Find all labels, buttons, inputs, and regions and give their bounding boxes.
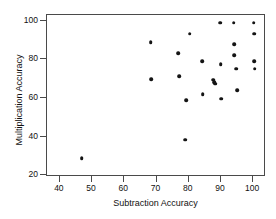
data-point bbox=[200, 60, 204, 64]
plot-area bbox=[47, 15, 264, 175]
y-tick-mark bbox=[40, 174, 46, 175]
x-tick-label: 90 bbox=[207, 184, 233, 193]
data-point bbox=[219, 63, 223, 67]
data-point bbox=[232, 43, 236, 47]
plot-frame bbox=[46, 14, 265, 176]
x-tick-label: 70 bbox=[143, 184, 169, 193]
data-point bbox=[177, 51, 181, 55]
data-point bbox=[253, 67, 257, 71]
data-point bbox=[232, 21, 236, 25]
data-point bbox=[219, 97, 223, 101]
y-tick-mark bbox=[40, 136, 46, 137]
data-point bbox=[80, 157, 84, 161]
data-point bbox=[149, 78, 153, 82]
data-point bbox=[235, 67, 239, 71]
x-tick-mark bbox=[156, 176, 157, 182]
x-tick-label: 60 bbox=[110, 184, 136, 193]
x-tick-mark bbox=[220, 176, 221, 182]
scatter-plot-figure: 20406080100 405060708090100 Subtraction … bbox=[0, 0, 276, 219]
x-tick-mark bbox=[123, 176, 124, 182]
y-axis-title: Multiplication Accuracy bbox=[14, 19, 24, 181]
y-tick-mark bbox=[40, 20, 46, 21]
x-tick-label: 50 bbox=[78, 184, 104, 193]
data-point bbox=[178, 74, 182, 78]
data-point bbox=[252, 21, 256, 25]
x-tick-label: 100 bbox=[239, 184, 265, 193]
data-point bbox=[252, 32, 256, 36]
x-tick-mark bbox=[252, 176, 253, 182]
data-point bbox=[213, 82, 217, 86]
x-tick-mark bbox=[59, 176, 60, 182]
y-tick-mark bbox=[40, 58, 46, 59]
y-tick-mark bbox=[40, 97, 46, 98]
x-tick-label: 40 bbox=[46, 184, 72, 193]
data-point bbox=[149, 41, 153, 45]
data-point bbox=[201, 92, 205, 96]
data-point bbox=[184, 138, 188, 142]
x-tick-label: 80 bbox=[175, 184, 201, 193]
data-point bbox=[253, 60, 257, 64]
x-tick-mark bbox=[188, 176, 189, 182]
data-point bbox=[188, 32, 192, 36]
data-point bbox=[184, 99, 188, 103]
data-point bbox=[218, 21, 222, 25]
data-point bbox=[235, 88, 239, 92]
x-tick-mark bbox=[91, 176, 92, 182]
data-point bbox=[233, 54, 237, 58]
x-axis-title: Subtraction Accuracy bbox=[46, 198, 265, 208]
